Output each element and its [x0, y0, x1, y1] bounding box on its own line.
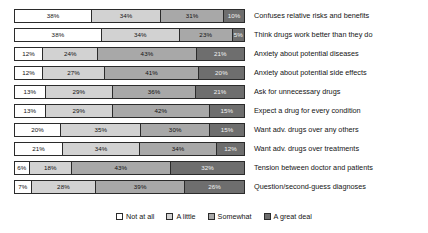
bar-segment-value: 13% — [23, 89, 36, 95]
bar-segment: 35% — [61, 124, 141, 136]
bar-segment-value: 20% — [215, 70, 228, 76]
bar-segment: 13% — [15, 86, 46, 98]
bar-segment-value: 30% — [169, 127, 182, 133]
bar-segment-value: 39% — [134, 184, 147, 190]
bar-segment: 34% — [63, 143, 140, 155]
bar-segment-value: 24% — [64, 51, 77, 57]
chart-row: 38%34%23%5%Think drugs work better than … — [0, 28, 428, 42]
bar-segment-value: 15% — [221, 108, 234, 114]
stacked-bar: 21%34%34%12% — [14, 142, 245, 156]
chart-row: 13%29%42%15%Expect a drug for every cond… — [0, 104, 428, 118]
bar-segment: 15% — [210, 124, 244, 136]
chart-row: 13%29%36%21%Ask for unnecessary drugs — [0, 85, 428, 99]
bar-segment-value: 12% — [22, 70, 35, 76]
bar-segment: 38% — [15, 29, 102, 41]
bar-segment-value: 38% — [52, 32, 65, 38]
legend-swatch-icon — [208, 213, 215, 220]
bar-segment: 12% — [15, 48, 43, 60]
category-label: Want adv. drugs over treatments — [254, 145, 359, 152]
bar-segment: 7% — [15, 181, 32, 193]
bar-segment-value: 43% — [115, 165, 128, 171]
bar-segment-value: 34% — [95, 146, 108, 152]
bar-segment: 23% — [180, 29, 233, 41]
bar-segment: 21% — [196, 86, 244, 98]
bar-segment: 31% — [161, 10, 224, 22]
bar-segment: 41% — [105, 67, 199, 79]
bar-segment-value: 12% — [224, 146, 237, 152]
bar-segment: 12% — [15, 67, 43, 79]
chart-row: 20%35%30%15%Want adv. drugs over any oth… — [0, 123, 428, 137]
bar-segment-value: 10% — [228, 13, 241, 19]
bar-segment-value: 12% — [22, 51, 35, 57]
bar-segment-value: 6% — [17, 165, 26, 171]
stacked-bar: 12%27%41%20% — [14, 66, 245, 80]
chart-row: 7%28%39%26%Question/second-guess diagnos… — [0, 180, 428, 194]
bar-segment-value: 5% — [234, 32, 243, 38]
category-label: Expect a drug for every condition — [254, 107, 361, 114]
legend-item: Somewhat — [208, 213, 252, 220]
bar-segment-value: 41% — [145, 70, 158, 76]
bar-segment-value: 31% — [186, 13, 199, 19]
legend-item: A great deal — [264, 213, 312, 220]
bar-segment: 42% — [113, 105, 210, 117]
bar-segment-value: 15% — [221, 127, 234, 133]
category-label: Question/second-guess diagnoses — [254, 183, 366, 190]
bar-segment-value: 21% — [32, 146, 45, 152]
bar-segment-value: 38% — [47, 13, 60, 19]
bar-segment: 36% — [113, 86, 196, 98]
stacked-bar: 20%35%30%15% — [14, 123, 245, 137]
bar-segment-value: 21% — [214, 51, 227, 57]
category-label: Anxiety about potential diseases — [254, 50, 359, 57]
bar-segment: 26% — [185, 181, 244, 193]
stacked-bar: 6%18%43%32% — [14, 161, 245, 175]
stacked-bar-chart: 38%34%31%10%Confuses relative risks and … — [0, 0, 428, 233]
chart-row: 12%24%43%21%Anxiety about potential dise… — [0, 47, 428, 61]
legend-swatch-icon — [166, 213, 173, 220]
stacked-bar: 12%24%43%21% — [14, 47, 245, 61]
bar-segment-value: 34% — [134, 32, 147, 38]
stacked-bar: 13%29%42%15% — [14, 104, 245, 118]
bar-segment: 27% — [43, 67, 105, 79]
bar-segment: 39% — [96, 181, 185, 193]
bar-segment: 21% — [197, 48, 244, 60]
chart-rows: 38%34%31%10%Confuses relative risks and … — [0, 9, 428, 199]
bar-segment-value: 21% — [214, 89, 227, 95]
bar-segment-value: 43% — [141, 51, 154, 57]
bar-segment: 43% — [98, 48, 196, 60]
bar-segment: 13% — [15, 105, 46, 117]
bar-segment: 34% — [92, 10, 161, 22]
bar-segment-value: 34% — [172, 146, 185, 152]
bar-segment: 30% — [141, 124, 210, 136]
bar-segment: 29% — [46, 86, 113, 98]
bar-segment: 34% — [140, 143, 217, 155]
bar-segment: 15% — [210, 105, 244, 117]
bar-segment: 21% — [15, 143, 63, 155]
category-label: Think drugs work better than they do — [254, 31, 372, 38]
bar-segment-value: 32% — [201, 165, 214, 171]
bar-segment-value: 13% — [23, 108, 36, 114]
category-label: Confuses relative risks and benefits — [254, 12, 369, 19]
bar-segment: 18% — [30, 162, 72, 174]
bar-segment-value: 20% — [31, 127, 44, 133]
bar-segment-value: 7% — [18, 184, 27, 190]
legend-swatch-icon — [264, 213, 271, 220]
bar-segment-value: 23% — [199, 32, 212, 38]
stacked-bar: 38%34%23%5% — [14, 28, 245, 42]
stacked-bar: 7%28%39%26% — [14, 180, 245, 194]
bar-segment: 5% — [233, 29, 244, 41]
category-label: Ask for unnecessary drugs — [254, 88, 340, 95]
stacked-bar: 38%34%31%10% — [14, 9, 245, 23]
chart-row: 12%27%41%20%Anxiety about potential side… — [0, 66, 428, 80]
legend-label: Not at all — [126, 213, 154, 220]
bar-segment-value: 36% — [148, 89, 161, 95]
bar-segment: 29% — [46, 105, 113, 117]
bar-segment-value: 18% — [44, 165, 57, 171]
legend-item: A little — [166, 213, 195, 220]
bar-segment: 43% — [72, 162, 171, 174]
bar-segment-value: 34% — [120, 13, 133, 19]
bar-segment-value: 28% — [57, 184, 70, 190]
bar-segment-value: 42% — [154, 108, 167, 114]
bar-segment-value: 29% — [72, 108, 85, 114]
bar-segment: 10% — [224, 10, 244, 22]
stacked-bar: 13%29%36%21% — [14, 85, 245, 99]
